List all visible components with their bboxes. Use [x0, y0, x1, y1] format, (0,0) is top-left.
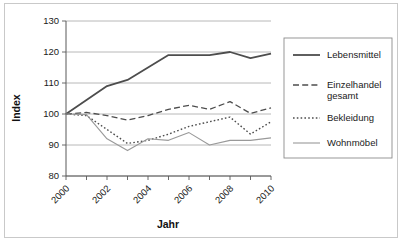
- y-tick-label: 80: [48, 170, 59, 181]
- x-tick-label: 2008: [213, 183, 236, 206]
- y-tick-label: 100: [43, 108, 59, 119]
- legend-label: Bekleidung: [327, 112, 374, 123]
- y-axis-tick-labels: 8090100110120130: [43, 15, 59, 181]
- axis-lines: [66, 21, 271, 176]
- y-axis-title: Index: [10, 94, 22, 122]
- x-tick-label: 2004: [131, 183, 154, 206]
- legend-label: Einzelhandel: [327, 79, 381, 90]
- chart-legend: LebensmittelEinzelhandelgesamtBekleidung…: [284, 38, 392, 158]
- x-tick-label: 2002: [90, 183, 113, 206]
- x-axis-tick-labels: 200020022004200620082010: [49, 183, 277, 206]
- x-axis-tick-marks: [66, 176, 271, 180]
- x-tick-label: 2006: [172, 183, 195, 206]
- y-tick-label: 120: [43, 46, 59, 57]
- x-tick-label: 2010: [254, 183, 277, 206]
- legend-label: gesamt: [327, 90, 359, 101]
- y-axis-tick-marks: [62, 21, 66, 176]
- chart-figure: 8090100110120130 20002002200420062008201…: [0, 0, 402, 243]
- line-chart: 8090100110120130 20002002200420062008201…: [0, 0, 402, 243]
- x-axis-title: Jahr: [157, 218, 179, 230]
- gridlines: [66, 21, 271, 176]
- legend-label: Lebensmittel: [327, 49, 381, 60]
- y-tick-label: 130: [43, 15, 59, 26]
- y-tick-label: 110: [44, 77, 59, 88]
- series-line-bekleidung: [66, 114, 271, 143]
- y-tick-label: 90: [48, 139, 59, 150]
- x-tick-label: 2000: [49, 183, 72, 206]
- legend-label: Wohnmöbel: [327, 137, 378, 148]
- series-lines: [66, 52, 271, 151]
- series-line-einzelhandel-gesamt: [66, 102, 271, 121]
